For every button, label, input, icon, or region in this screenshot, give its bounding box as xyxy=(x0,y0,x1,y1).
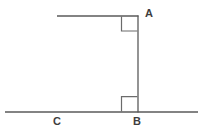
geometry-figure: A B C xyxy=(0,0,216,139)
right-angle-mark-at-A xyxy=(122,17,138,31)
point-label-a: A xyxy=(145,8,153,19)
right-angle-mark-at-B xyxy=(122,97,138,112)
point-label-c: C xyxy=(53,116,61,127)
figure-canvas xyxy=(0,0,216,139)
point-label-b: B xyxy=(133,116,141,127)
